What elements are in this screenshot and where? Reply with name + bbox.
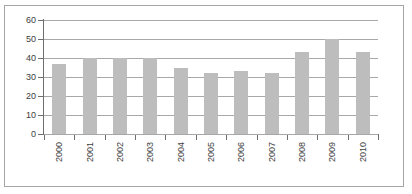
bars-group	[44, 20, 378, 134]
x-axis-tick-mark	[165, 135, 166, 140]
y-axis-tick-mark	[38, 96, 43, 97]
y-axis-tick-labels: 0102030405060	[0, 0, 36, 194]
x-axis-tick-mark	[196, 135, 197, 140]
y-axis-tick-mark	[38, 20, 43, 21]
bar	[325, 39, 339, 134]
bar	[113, 58, 127, 134]
x-axis-tick-mark	[135, 135, 136, 140]
x-axis-tick-mark	[74, 135, 75, 140]
y-axis-tick-mark	[38, 58, 43, 59]
x-axis-tick-label: 2004	[176, 142, 186, 162]
bar	[143, 58, 157, 134]
y-axis-tick-mark	[38, 134, 43, 135]
y-axis-tick-mark	[38, 39, 43, 40]
x-axis-tick-label: 2005	[206, 142, 216, 162]
y-axis-tick-label: 0	[31, 130, 36, 139]
bar	[234, 71, 248, 134]
y-axis-tick-label: 50	[26, 35, 36, 44]
x-axis-tick-label: 2008	[297, 142, 307, 162]
y-axis-tick-label: 30	[26, 73, 36, 82]
x-axis-tick-mark	[287, 135, 288, 140]
y-axis-tick-mark	[38, 115, 43, 116]
bar-chart-figure: 0102030405060 20002001200220032004200520…	[0, 0, 412, 194]
y-axis-tick-label: 20	[26, 92, 36, 101]
x-axis-tick-label: 2003	[145, 142, 155, 162]
y-axis-tick-mark	[38, 77, 43, 78]
x-axis-tick-mark	[378, 135, 379, 140]
bar	[52, 64, 66, 134]
x-axis-tick-mark	[226, 135, 227, 140]
x-axis-tick-label: 2009	[327, 142, 337, 162]
bar	[265, 73, 279, 134]
y-axis-tick-label: 60	[26, 16, 36, 25]
gridline	[44, 134, 378, 135]
x-axis-tick-mark	[44, 135, 45, 140]
bar	[295, 52, 309, 134]
x-axis-tick-label: 2001	[85, 142, 95, 162]
bar	[204, 73, 218, 134]
x-axis-tick-label: 2002	[115, 142, 125, 162]
bar	[83, 58, 97, 134]
x-axis-tick-label: 2000	[54, 142, 64, 162]
x-axis-tick-label: 2007	[267, 142, 277, 162]
x-axis-tick-label: 2006	[236, 142, 246, 162]
x-axis-tick-mark	[257, 135, 258, 140]
x-axis-tick-label: 2010	[358, 142, 368, 162]
x-axis-tick-mark	[348, 135, 349, 140]
y-axis-tick-label: 10	[26, 111, 36, 120]
bar	[356, 52, 370, 134]
x-axis-tick-mark	[317, 135, 318, 140]
y-axis-tick-label: 40	[26, 54, 36, 63]
bar	[174, 68, 188, 135]
x-axis-tick-labels: 2000200120022003200420052006200720082009…	[44, 142, 378, 190]
x-axis-tick-mark	[105, 135, 106, 140]
